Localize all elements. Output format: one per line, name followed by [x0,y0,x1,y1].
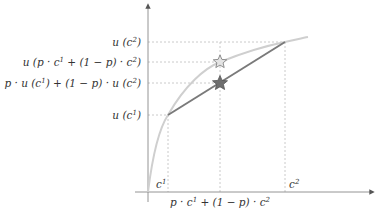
label-c1: c1 [156,178,166,190]
label-u-mean: u (p · c1 + (1 − p) · c2) [23,56,141,68]
label-mean: p · c1 + (1 − p) · c2 [170,196,271,208]
label-c2: c2 [289,178,300,190]
label-u-c2: u (c2) [112,36,141,48]
hollow-star-icon [213,55,226,68]
label-u-c1: u (c1) [112,109,141,121]
utility-curve [148,37,308,192]
chord-line [168,42,285,115]
utility-diagram: u (c2) u (p · c1 + (1 − p) · c2) p · u (… [0,0,380,214]
label-expected-u: p · u (c1) + (1 − p) · u (c2) [4,77,141,89]
